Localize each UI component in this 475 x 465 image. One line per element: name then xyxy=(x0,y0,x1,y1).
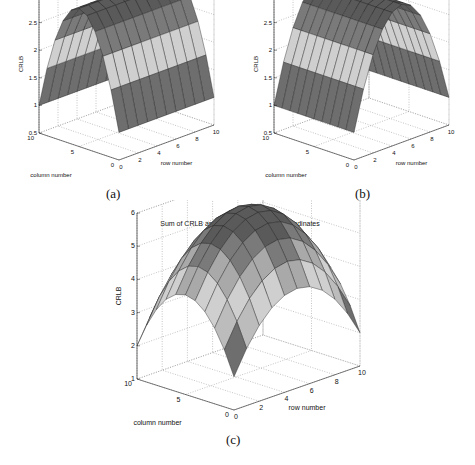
caption-c: (c) xyxy=(226,432,240,448)
x-tick-label: 6 xyxy=(176,143,180,149)
x-tick-label: 0 xyxy=(119,164,123,170)
y-axis xyxy=(137,379,234,410)
x-tick-label: 10 xyxy=(358,369,366,376)
x-tick-label: 6 xyxy=(310,387,314,394)
z-tick-label: 4 xyxy=(131,275,135,282)
z-axis-label: CRLB xyxy=(253,56,259,72)
z-tick-label: 3 xyxy=(131,309,135,316)
x-tick-label: 8 xyxy=(335,378,339,385)
x-axis xyxy=(119,125,214,160)
y-axis-label: column number xyxy=(133,419,182,426)
z-tick-label: 1.5 xyxy=(29,75,38,81)
x-tick-label: 4 xyxy=(157,150,161,156)
plot-c: Sum of CRLB associated with X- and Y-coo… xyxy=(90,200,390,435)
z-axis-label: CRLB xyxy=(115,286,122,305)
z-tick-label: 2 xyxy=(269,47,273,53)
x-axis-label: row number xyxy=(161,160,193,166)
x-tick-label: 8 xyxy=(430,136,434,142)
y-axis xyxy=(39,133,119,160)
surface-chart-c: Sum of CRLB associated with X- and Y-coo… xyxy=(90,200,390,435)
x-axis xyxy=(354,125,449,160)
x-tick-label: 2 xyxy=(373,157,377,163)
z-tick-label: 1 xyxy=(269,102,273,108)
surface-patch xyxy=(338,286,360,333)
x-tick-label: 0 xyxy=(354,164,358,170)
z-tick-label: 0.5 xyxy=(29,130,38,136)
x-tick-label: 2 xyxy=(138,157,142,163)
z-tick-label: 2.5 xyxy=(29,20,38,26)
z-tick-label: 2 xyxy=(34,47,38,53)
surface-chart-a: CRLB associated with X-coordinates024681… xyxy=(0,0,240,190)
z-tick-label: 6 xyxy=(131,209,135,216)
x-tick-label: 10 xyxy=(213,129,220,135)
x-axis-label: row number xyxy=(396,160,428,166)
y-axis-label: column number xyxy=(265,172,306,178)
z-tick-label: 1.5 xyxy=(264,75,273,81)
z-tick-label: 1 xyxy=(34,102,38,108)
z-tick-label: 5 xyxy=(131,242,135,249)
y-tick-label: 0 xyxy=(111,162,115,168)
surface-chart-b: CRLB associated with Y-coordinates024681… xyxy=(235,0,475,190)
x-tick-label: 4 xyxy=(284,395,288,402)
x-tick-label: 6 xyxy=(411,143,415,149)
y-axis xyxy=(274,133,354,160)
surface-patch xyxy=(147,281,169,325)
x-tick-label: 4 xyxy=(392,150,396,156)
plot-a: CRLB associated with X-coordinates024681… xyxy=(0,0,240,190)
y-tick-label: 5 xyxy=(306,149,310,155)
x-tick-label: 8 xyxy=(195,136,199,142)
x-tick-label: 0 xyxy=(234,413,238,420)
y-tick-label: 0 xyxy=(346,162,350,168)
z-tick-label: 1 xyxy=(131,375,135,382)
plot-b: CRLB associated with Y-coordinates024681… xyxy=(235,0,475,190)
x-tick-label: 10 xyxy=(448,129,455,135)
y-tick-label: 5 xyxy=(71,149,75,155)
y-axis-label: column number xyxy=(30,172,71,178)
x-axis-label: row number xyxy=(289,404,327,411)
z-tick-label: 2 xyxy=(131,342,135,349)
y-tick-label: 5 xyxy=(177,396,181,403)
z-tick-label: 2.5 xyxy=(264,20,273,26)
z-axis-label: CRLB xyxy=(18,56,24,72)
z-tick-label: 0.5 xyxy=(264,130,273,136)
x-tick-label: 2 xyxy=(259,404,263,411)
y-tick-label: 0 xyxy=(225,411,229,418)
